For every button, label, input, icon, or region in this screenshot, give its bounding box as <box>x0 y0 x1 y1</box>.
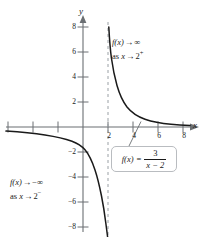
formula-lhs: f(x) <box>122 154 134 164</box>
negative-infinity-symbol: −∞ <box>32 177 43 187</box>
annotation-fx: f(x) <box>112 37 124 47</box>
annotation-limit-right-plus: f(x)→∞ as x→2+ <box>112 36 143 62</box>
arrow-icon: → <box>22 177 33 187</box>
formula-denominator: x − 2 <box>146 160 164 170</box>
x-tick-label-2: 2 <box>104 131 114 140</box>
figure-container: y x 2 4 6 8 8 6 4 2 −2 −4 −6 −8 f(x)→∞ a… <box>0 0 204 237</box>
arrow-icon: → <box>124 37 135 47</box>
y-tick-label-neg4: −4 <box>60 172 76 181</box>
x-tick-label-8: 8 <box>179 131 189 140</box>
arrow-icon: → <box>23 191 34 201</box>
x-tick-label-4: 4 <box>129 131 139 140</box>
annotation-limit-left-line2: as x→2− <box>10 188 43 202</box>
annotation-limit-left-line1: f(x)→−∞ <box>10 176 43 188</box>
annotation-limit-right-line2: as x→2+ <box>112 48 143 62</box>
formula-equals: = <box>134 154 145 164</box>
y-tick-label-neg6: −6 <box>60 197 76 206</box>
y-tick-label-4: 4 <box>64 72 76 81</box>
infinity-symbol: ∞ <box>134 37 140 47</box>
y-tick-label-8: 8 <box>64 22 76 31</box>
y-axis <box>80 15 87 232</box>
annotation-fx: f(x) <box>10 177 22 187</box>
function-formula-box: f(x) = 3 x − 2 <box>111 146 177 172</box>
formula-numerator: 3 <box>153 149 157 159</box>
annotation-side-superscript: − <box>38 189 42 196</box>
annotation-limit-left-minus: f(x)→−∞ as x→2− <box>10 176 43 202</box>
y-axis-label: y <box>79 6 83 16</box>
annotation-limit-right-line1: f(x)→∞ <box>112 36 143 48</box>
arrow-icon: → <box>125 51 136 61</box>
annotation-as-word: as <box>10 191 17 201</box>
annotation-side-superscript: + <box>140 49 144 56</box>
function-formula: f(x) = 3 x − 2 <box>122 149 167 169</box>
y-tick-label-neg2: −2 <box>60 147 76 156</box>
y-tick-label-neg8: −8 <box>60 222 76 231</box>
x-tick-label-6: 6 <box>154 131 164 140</box>
formula-fraction: 3 x − 2 <box>144 149 166 169</box>
y-tick-label-6: 6 <box>64 47 76 56</box>
y-tick-label-2: 2 <box>64 97 76 106</box>
x-axis-label: x <box>193 120 197 130</box>
annotation-as-word: as <box>112 51 119 61</box>
